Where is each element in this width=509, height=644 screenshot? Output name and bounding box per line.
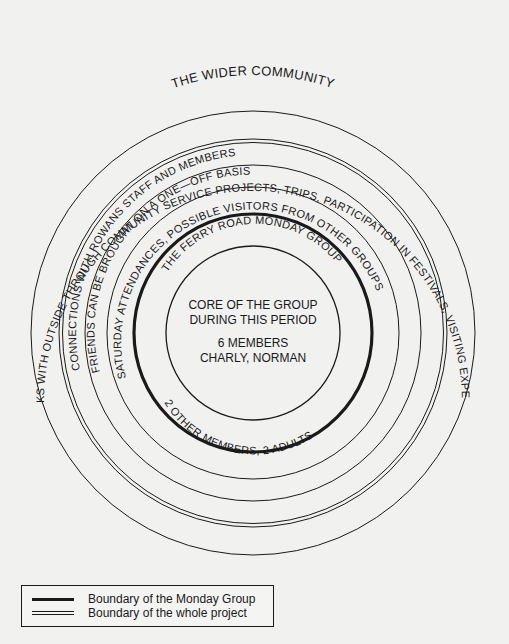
core-text: CORE OF THE GROUP DURING THIS PERIOD 6 M… [188,298,317,365]
legend-label: Boundary of the Monday Group [88,592,255,606]
concentric-group-diagram: THE WIDER COMMUNITY LINKS WITH OUTSIDE T… [0,0,509,644]
label-wider-community: THE WIDER COMMUNITY [169,63,336,91]
core-line-3: 6 MEMBERS [218,336,289,350]
core-line-2: DURING THIS PERIOD [189,313,316,327]
legend-label: Boundary of the whole project [88,606,247,620]
core-boundary [166,246,340,420]
outer-ring [31,111,475,555]
thick-line-swatch-icon [32,595,74,603]
core-line-4: CHARLY, NORMAN [200,351,306,365]
legend-item-whole-project: Boundary of the whole project [32,606,273,620]
legend-item-monday-group: Boundary of the Monday Group [32,592,273,606]
label-other-members: 2 OTHER MEMBERS, 2 ADULTS [162,397,314,456]
friends-ring [107,187,399,479]
double-line-swatch-icon [32,609,74,617]
rings [31,111,475,555]
legend: Boundary of the Monday Group Boundary of… [21,585,274,627]
core-line-1: CORE OF THE GROUP [188,298,317,312]
